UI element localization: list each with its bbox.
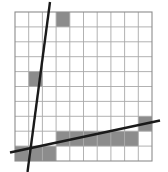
shaded-cell (56, 12, 70, 27)
chart-figure (0, 0, 168, 172)
grid-line-plot (0, 0, 168, 172)
shaded-cell (56, 131, 70, 146)
shaded-cell (125, 131, 139, 146)
shaded-cell (111, 131, 125, 146)
shaded-cell (42, 146, 56, 161)
